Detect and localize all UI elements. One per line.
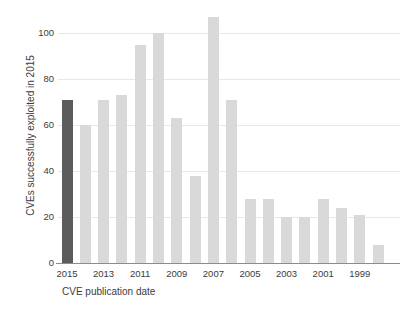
y-axis-label: CVEs successfully exploited in 2015 — [25, 36, 36, 236]
x-axis-tick-label: 2003 — [267, 268, 307, 279]
x-axis-tick-label: 2009 — [157, 268, 197, 279]
x-axis-label: CVE publication date — [62, 286, 155, 297]
x-axis-tick-label: 2005 — [230, 268, 270, 279]
x-axis-tick-label: 2011 — [120, 268, 160, 279]
x-axis-tick-label: 2001 — [303, 268, 343, 279]
x-axis-tick-labels: 201520132011200920072005200320011999 — [58, 0, 400, 311]
x-axis-tick-label: 2013 — [84, 268, 124, 279]
x-axis-tick-label: 1999 — [340, 268, 380, 279]
x-axis-tick-label: 2007 — [193, 268, 233, 279]
chart-figure: 100806040200 201520132011200920072005200… — [0, 0, 416, 311]
y-axis-label-wrap: CVEs successfully exploited in 2015 — [0, 0, 30, 311]
x-axis-tick-label: 2015 — [47, 268, 87, 279]
